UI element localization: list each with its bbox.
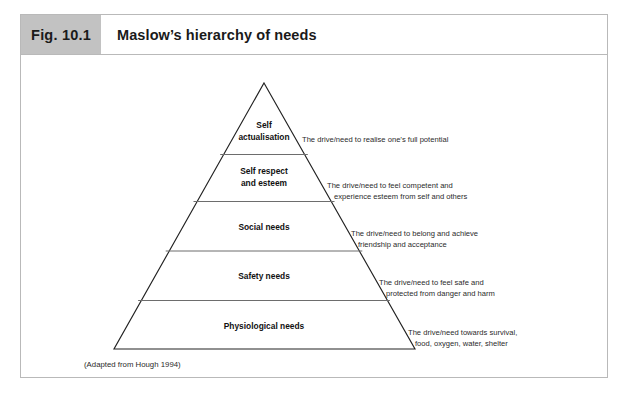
description-line: protected from danger and harm: [386, 289, 495, 298]
tier-description-social-needs: The drive/need to belong and achieve fri…: [351, 229, 478, 249]
description-line: The drive/need towards survival,: [408, 328, 517, 337]
description-line: experience esteem from self and others: [334, 192, 468, 201]
description-line: food, oxygen, water, shelter: [415, 339, 508, 348]
tier-label-safety-needs: Safety needs: [238, 271, 290, 281]
source-attribution: (Adapted from Hough 1994): [84, 360, 181, 369]
figure-number-box: Fig. 10.1: [21, 15, 101, 54]
tier-label-line: and esteem: [241, 178, 287, 188]
tier-description-physiological-needs: The drive/need towards survival, food, o…: [408, 328, 517, 348]
tier-label-line: Safety needs: [238, 271, 290, 281]
tier-label-line: Self respect: [240, 166, 288, 176]
description-line: The drive/need to feel safe and: [379, 278, 484, 287]
figure-title-label: Maslow’s hierarchy of needs: [117, 27, 317, 43]
figure-number-label: Fig. 10.1: [31, 27, 91, 43]
figure-title-box: Maslow’s hierarchy of needs: [101, 15, 607, 54]
description-line: The drive/need to feel competent and: [327, 181, 453, 190]
tier-label-social-needs: Social needs: [238, 222, 290, 232]
tier-label-line: Self: [256, 120, 272, 130]
tier-label-line: Social needs: [238, 222, 290, 232]
tier-description-safety-needs: The drive/need to feel safe and protecte…: [379, 278, 495, 298]
figure-frame: Fig. 10.1 Maslow’s hierarchy of needs Se…: [20, 14, 608, 378]
description-line: The drive/need to realise one’s full pot…: [302, 135, 449, 144]
pyramid-diagram: Self actualisation Self respect and este…: [21, 55, 607, 377]
tier-label-line: actualisation: [238, 132, 289, 142]
figure-header: Fig. 10.1 Maslow’s hierarchy of needs: [21, 15, 607, 55]
tier-label-self-actualisation: Self actualisation: [238, 120, 289, 142]
tier-label-self-respect-and-esteem: Self respect and esteem: [240, 166, 288, 188]
tier-label-line: Physiological needs: [224, 321, 305, 331]
description-line: The drive/need to belong and achieve: [351, 229, 478, 238]
tier-description-self-respect-and-esteem: The drive/need to feel competent and exp…: [327, 181, 468, 201]
pyramid-svg: Self actualisation Self respect and este…: [21, 55, 607, 377]
tier-label-physiological-needs: Physiological needs: [224, 321, 305, 331]
description-line: friendship and acceptance: [358, 240, 447, 249]
tier-description-self-actualisation: The drive/need to realise one’s full pot…: [302, 135, 449, 144]
